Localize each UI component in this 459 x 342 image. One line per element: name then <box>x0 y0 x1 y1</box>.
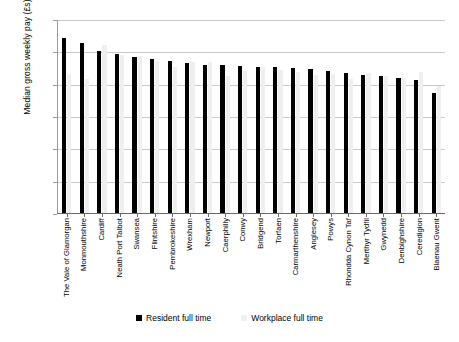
bar-group <box>427 20 445 213</box>
black-square-icon <box>136 315 142 321</box>
bar-group <box>357 20 375 213</box>
x-label-cell: Monmouthshire <box>75 216 93 308</box>
plot-area <box>57 20 445 214</box>
bar-resident <box>361 75 365 213</box>
bar-workplace <box>419 72 423 213</box>
bar-workplace <box>331 74 335 213</box>
x-label-cell: Wrexham <box>180 216 198 308</box>
bar-resident <box>326 71 330 213</box>
bar-group <box>322 20 340 213</box>
bar-workplace <box>138 56 142 213</box>
bar-group <box>304 20 322 213</box>
x-tick-label: Neath Port Talbot <box>114 218 123 277</box>
bar-group <box>216 20 234 213</box>
bar-workplace <box>173 67 177 213</box>
bar-resident <box>291 68 295 214</box>
y-axis-title: Median gross weekly pay (£s) <box>22 0 32 142</box>
x-label-cell: Bridgend <box>251 216 269 308</box>
bar-workplace <box>384 76 388 213</box>
bar-resident <box>220 65 224 213</box>
x-tick-label: Bridgend <box>255 218 264 249</box>
bar-group <box>234 20 252 213</box>
bar-workplace <box>243 71 247 213</box>
x-label-cell: Blaenau Gwent <box>427 216 445 308</box>
bar-workplace <box>349 79 353 213</box>
x-label-cell: Rhondda Cynon Taf <box>339 216 357 308</box>
bar-workplace <box>190 62 194 213</box>
x-axis-labels: The Vale of GlamorganMonmouthshireCardif… <box>57 216 445 308</box>
bar-group <box>287 20 305 213</box>
bar-workplace <box>402 78 406 213</box>
bar-resident <box>414 80 418 213</box>
bar-workplace <box>120 55 124 213</box>
bar-group <box>199 20 217 213</box>
x-tick-label: Wrexham <box>185 218 194 251</box>
x-label-cell: Pembrokeshire <box>163 216 181 308</box>
x-label-cell: Cardiff <box>92 216 110 308</box>
x-tick-label: Carmarthenshire <box>291 218 300 275</box>
x-label-cell: Ceredigion <box>410 216 428 308</box>
x-tick-label: Merthyr Tydfil <box>361 218 370 264</box>
bar-group <box>252 20 270 213</box>
bar-resident <box>238 66 242 213</box>
x-label-cell: Powys <box>322 216 340 308</box>
bar-workplace <box>261 67 265 213</box>
x-tick-label: Ceredigion <box>414 218 423 255</box>
chart-legend: Resident full timeWorkplace full time <box>0 313 459 323</box>
bar-resident <box>432 93 436 213</box>
bar-resident <box>344 73 348 213</box>
bar-workplace <box>278 70 282 213</box>
bar-resident <box>97 51 101 213</box>
bar-resident <box>168 61 172 213</box>
bar-group <box>375 20 393 213</box>
y-tick-mark <box>53 214 57 215</box>
bar-resident <box>150 59 154 213</box>
legend-item: Workplace full time <box>241 313 323 323</box>
bar-group <box>76 20 94 213</box>
bar-workplace <box>67 74 71 213</box>
x-tick-label: Newport <box>202 218 211 247</box>
x-tick-label: Swansea <box>132 218 141 250</box>
bar-resident <box>203 65 207 213</box>
x-label-cell: Flintshire <box>145 216 163 308</box>
bar-group <box>146 20 164 213</box>
bar-resident <box>256 67 260 213</box>
bar-workplace <box>208 62 212 213</box>
bar-workplace <box>437 86 441 213</box>
legend-label: Workplace full time <box>251 313 323 323</box>
x-label-cell: Merthyr Tydfil <box>357 216 375 308</box>
x-tick-label: Blaenau Gwent <box>432 218 441 271</box>
x-label-cell: Caerphilly <box>216 216 234 308</box>
bar-resident <box>308 69 312 213</box>
bar-resident <box>396 78 400 213</box>
bar-chart: Median gross weekly pay (£s) 01002003004… <box>0 0 459 342</box>
x-tick-label: Cardiff <box>97 218 106 241</box>
bar-resident <box>62 38 66 213</box>
bar-resident <box>80 43 84 213</box>
x-tick-label: Powys <box>326 218 335 241</box>
x-tick-label: Torfaen <box>273 218 282 244</box>
bar-group <box>164 20 182 213</box>
bar-workplace <box>102 45 106 213</box>
bar-group <box>93 20 111 213</box>
bar-workplace <box>366 73 370 213</box>
bar-workplace <box>226 76 230 213</box>
bar-group <box>111 20 129 213</box>
bar-workplace <box>314 75 318 213</box>
x-tick-label: Rhondda Cynon Taf <box>344 218 353 286</box>
legend-label: Resident full time <box>146 313 211 323</box>
bar-resident <box>273 67 277 213</box>
x-label-cell: Newport <box>198 216 216 308</box>
bar-group <box>410 20 428 213</box>
bar-group <box>340 20 358 213</box>
x-tick-label: Anglesey <box>308 218 317 250</box>
x-tick-label: Gwynedd <box>379 218 388 250</box>
x-tick-label: Flintshire <box>150 218 159 249</box>
bar-resident <box>115 54 119 213</box>
bar-groups <box>58 20 445 213</box>
x-label-cell: Carmarthenshire <box>286 216 304 308</box>
x-tick-label: The Vale of Glamorgan <box>61 218 70 297</box>
x-tick-label: Denbighshire <box>396 218 405 263</box>
x-label-cell: Conwy <box>233 216 251 308</box>
x-label-cell: Anglesey <box>304 216 322 308</box>
